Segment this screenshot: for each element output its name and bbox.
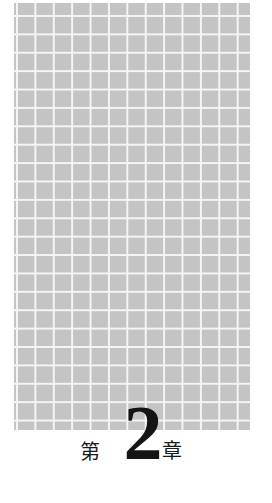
chapter-title-page: { "page": { "background_color": "#ffffff…: [0, 0, 272, 503]
chapter-prefix-label: 第: [80, 442, 100, 462]
grid-pattern-panel: [14, 3, 250, 430]
chapter-suffix-label: 章: [162, 441, 182, 461]
